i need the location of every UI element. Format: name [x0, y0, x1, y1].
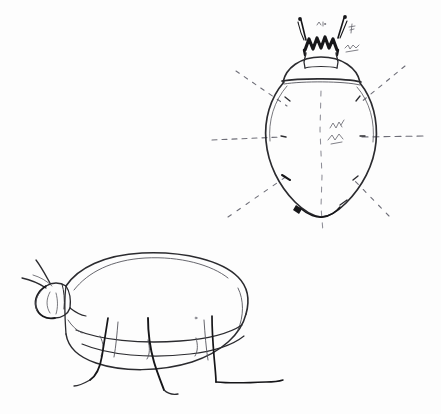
paper-background — [0, 0, 441, 414]
leg-stub-mid-left — [281, 136, 286, 137]
antenna-right-tip — [343, 15, 347, 19]
antenna-left-tip — [298, 17, 302, 21]
mandible-right-base — [337, 50, 338, 55]
sketch-canvas — [0, 0, 441, 414]
beetle-sketch-drawing — [0, 0, 441, 414]
mandible-left-base — [304, 50, 305, 55]
